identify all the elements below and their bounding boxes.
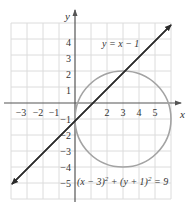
x-tick: −2	[33, 107, 44, 118]
graph-plot: y x −3 −2 −1 2 3 4 5 4 3 2 1 −1 −2 −3 −4…	[0, 0, 195, 206]
line-equation-label: y = x − 1	[101, 38, 139, 49]
y-tick: 3	[66, 53, 71, 64]
x-tick: 4	[137, 107, 142, 118]
x-tick: −1	[49, 107, 60, 118]
x-axis-label: x	[179, 108, 185, 120]
y-tick: −4	[60, 162, 71, 173]
x-tick: −3	[16, 107, 27, 118]
y-tick: −3	[60, 146, 71, 157]
x-tick: 2	[105, 107, 110, 118]
y-tick: 4	[66, 37, 71, 48]
y-tick: −2	[60, 130, 71, 141]
x-tick: 5	[153, 107, 158, 118]
y-tick: 2	[66, 69, 71, 80]
y-tick: 1	[66, 85, 71, 96]
x-tick: 3	[121, 107, 126, 118]
circle-equation-label: (x − 3)2 + (y + 1)2 = 9	[77, 175, 168, 188]
y-tick: −5	[60, 178, 71, 189]
y-axis-label: y	[64, 10, 70, 22]
y-tick: −1	[60, 114, 71, 125]
